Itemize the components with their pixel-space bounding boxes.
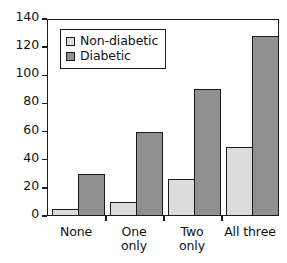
bar-non-diabetic (168, 179, 195, 216)
legend-label: Non-diabetic (80, 35, 158, 48)
y-axis-tick-label: 60 (23, 124, 39, 137)
legend-label: Diabetic (80, 50, 131, 63)
legend-item: Diabetic (66, 49, 158, 64)
bar-group (226, 19, 279, 216)
legend-swatch-non-diabetic (66, 37, 75, 46)
bar-diabetic (78, 174, 105, 216)
bar-non-diabetic (52, 209, 79, 216)
legend-item: Non-diabetic (66, 34, 158, 49)
legend-swatch-diabetic (66, 52, 75, 61)
bar-group (168, 19, 221, 216)
bar-non-diabetic (110, 202, 137, 216)
x-axis-tick-mark (163, 216, 165, 221)
y-axis: 020406080100120140 (0, 19, 47, 216)
bar-diabetic (252, 36, 279, 216)
x-axis-tick-mark (221, 216, 223, 221)
x-axis-tick-mark (105, 216, 107, 221)
y-axis-tick-label: 20 (23, 180, 39, 193)
x-axis: NoneOne onlyTwo onlyAll three (47, 216, 279, 263)
y-axis-tick-label: 0 (31, 208, 39, 221)
y-axis-tick-label: 40 (23, 152, 39, 165)
y-axis-tick-label: 100 (15, 67, 39, 80)
bar-diabetic (194, 89, 221, 216)
y-axis-tick-label: 140 (15, 11, 39, 24)
x-axis-label: All three (213, 225, 287, 239)
chart-legend: Non-diabeticDiabetic (60, 29, 166, 69)
bar-chart: 020406080100120140 NoneOne onlyTwo onlyA… (0, 0, 287, 263)
bar-diabetic (136, 132, 163, 216)
y-axis-tick-label: 80 (23, 95, 39, 108)
y-axis-tick-label: 120 (15, 39, 39, 52)
bar-non-diabetic (226, 147, 253, 216)
